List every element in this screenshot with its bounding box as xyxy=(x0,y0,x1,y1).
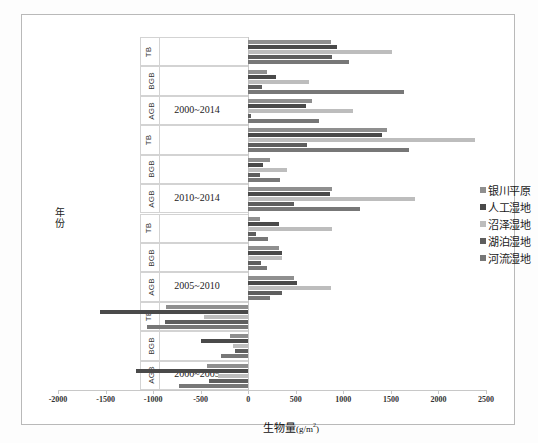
legend-swatch-icon xyxy=(480,204,486,210)
bar xyxy=(221,354,249,358)
bar xyxy=(248,237,268,241)
x-axis-tick xyxy=(486,390,487,394)
legend-swatch-icon xyxy=(480,238,486,244)
category-label-agb: AGB xyxy=(147,102,156,120)
bar-group xyxy=(58,302,486,390)
legend-item[interactable]: 银川平原 xyxy=(480,181,536,198)
x-axis-tick-label: -1000 xyxy=(144,395,163,404)
plot-area: -2000-1500-1000-50005001000150020002500T… xyxy=(58,37,486,390)
category-tier-divider xyxy=(159,332,160,359)
bar xyxy=(248,178,279,182)
period-label: 2005~2010 xyxy=(174,280,219,291)
bar xyxy=(248,133,382,137)
category-label-box: TB xyxy=(140,37,248,66)
chart-frame: -2000-1500-1000-50005001000150020002500T… xyxy=(21,14,515,425)
bar xyxy=(248,291,281,295)
bar xyxy=(248,286,331,290)
x-axis-tick-label: 2500 xyxy=(478,395,494,404)
x-axis-tick xyxy=(296,390,297,394)
bar xyxy=(248,80,309,84)
legend-item[interactable]: 湖泊湿地 xyxy=(480,232,536,249)
bar xyxy=(248,119,318,123)
x-axis-tick xyxy=(201,390,202,394)
category-label-bgb: BGB xyxy=(147,249,156,267)
bar xyxy=(248,251,281,255)
category-label-box: TB xyxy=(140,125,248,154)
bar xyxy=(248,266,267,270)
chart-legend: 银川平原人工湿地沼泽湿地湖泊湿地河流湿地 xyxy=(480,181,536,266)
legend-swatch-icon xyxy=(480,221,486,227)
bar xyxy=(248,138,474,142)
category-label-box: BGB xyxy=(140,155,248,184)
bar xyxy=(209,379,248,383)
category-tier-divider xyxy=(159,244,160,271)
bar xyxy=(100,310,248,314)
bar xyxy=(233,344,248,348)
bar xyxy=(248,128,387,132)
category-tier-divider xyxy=(159,362,160,389)
bar xyxy=(230,334,248,338)
legend-item[interactable]: 河流湿地 xyxy=(480,249,536,266)
x-axis-line xyxy=(58,390,486,391)
category-label-tb: TB xyxy=(144,223,153,234)
bar xyxy=(248,187,332,191)
bar xyxy=(248,114,251,118)
legend-label: 沼泽湿地 xyxy=(488,216,531,232)
bar xyxy=(248,232,256,236)
bar xyxy=(248,281,297,285)
bar xyxy=(248,40,331,44)
category-label-tb: TB xyxy=(144,46,153,57)
bar xyxy=(248,75,276,79)
x-axis-tick xyxy=(248,390,249,394)
legend-label: 人工湿地 xyxy=(488,199,531,215)
x-axis-tick-label: 0 xyxy=(246,395,250,404)
category-label-box: BGB xyxy=(140,243,248,272)
bar xyxy=(136,369,248,373)
legend-swatch-icon xyxy=(480,255,486,261)
bar xyxy=(248,55,332,59)
bar xyxy=(248,148,409,152)
category-label-agb: AGB xyxy=(147,190,156,208)
y-axis-title-char-2: 份 xyxy=(53,218,67,229)
bar xyxy=(147,325,248,329)
bar xyxy=(235,349,248,353)
period-label: 2000~2014 xyxy=(174,104,219,115)
x-axis-tick-label: 1000 xyxy=(335,395,351,404)
x-axis-tick xyxy=(391,390,392,394)
category-label-bgb: BGB xyxy=(147,161,156,179)
x-axis-tick-label: -1500 xyxy=(96,395,115,404)
legend-item[interactable]: 沼泽湿地 xyxy=(480,215,536,232)
bar xyxy=(248,261,260,265)
category-tier-divider xyxy=(159,97,160,124)
bar xyxy=(207,364,248,368)
bar xyxy=(166,305,248,309)
chart-figure: -2000-1500-1000-50005001000150020002500T… xyxy=(0,0,538,443)
bar xyxy=(204,315,248,319)
bar xyxy=(248,143,307,147)
x-axis-tick-label: 2000 xyxy=(430,395,446,404)
category-tier-divider xyxy=(159,67,160,94)
legend-item[interactable]: 人工湿地 xyxy=(480,198,536,215)
legend-label: 湖泊湿地 xyxy=(488,233,531,249)
x-axis-tick xyxy=(438,390,439,394)
x-axis-tick-label: -2000 xyxy=(49,395,68,404)
legend-swatch-icon xyxy=(480,187,486,193)
y-axis-title-char-1: 年 xyxy=(53,207,67,218)
x-axis-tick xyxy=(58,390,59,394)
x-axis-tick xyxy=(106,390,107,394)
bar xyxy=(218,374,248,378)
legend-label: 河流湿地 xyxy=(488,250,531,266)
bar xyxy=(179,384,248,388)
bar xyxy=(248,173,259,177)
period-label: 2010~2014 xyxy=(174,192,219,203)
category-label-agb: AGB xyxy=(147,278,156,296)
x-axis-title: 生物量(g/m2) xyxy=(22,419,538,435)
bar xyxy=(248,90,404,94)
bar xyxy=(248,227,332,231)
x-axis-tick xyxy=(343,390,344,394)
bar xyxy=(201,339,249,343)
bar xyxy=(248,60,349,64)
bar xyxy=(248,207,360,211)
bar xyxy=(248,99,312,103)
bar xyxy=(248,168,287,172)
